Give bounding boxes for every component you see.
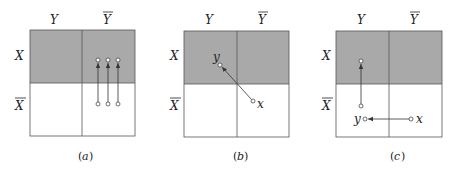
region-x-shaded [184, 31, 289, 84]
col-label-ybar: Y [410, 12, 420, 27]
caption-b: ( b ) [233, 150, 248, 163]
caption-a: ( a ) [78, 150, 93, 163]
panel-a: Y Y X X ( a [14, 12, 135, 163]
region-xbar [30, 83, 135, 136]
row-label-xbar: X [321, 98, 333, 113]
row-label-x: X [321, 49, 331, 63]
svg-text:X: X [169, 99, 179, 113]
svg-text:c: c [394, 150, 400, 163]
diagram-canvas: Y Y X X ( a [0, 0, 455, 176]
svg-text:Y: Y [103, 13, 112, 27]
col-label-y: Y [205, 13, 214, 27]
row-label-xbar: X [169, 98, 181, 113]
row-label-xbar: X [14, 98, 26, 113]
point-label-y: y [353, 112, 361, 126]
svg-text:X: X [321, 99, 331, 113]
svg-text:Y: Y [258, 13, 267, 27]
point-label-y: y [212, 50, 220, 64]
region-xbar [184, 84, 289, 137]
point-label-x: x [416, 112, 423, 126]
panel-c: Y Y X X y x ( c ) [321, 12, 442, 163]
svg-text:): ) [401, 150, 405, 163]
col-label-ybar: Y [103, 12, 113, 27]
svg-text:b: b [237, 150, 244, 163]
col-label-y: Y [357, 13, 366, 27]
svg-text:Y: Y [410, 13, 419, 27]
row-label-x: X [14, 49, 24, 63]
svg-text:): ) [244, 150, 248, 163]
caption-c: ( c ) [390, 150, 405, 163]
col-label-y: Y [50, 13, 59, 27]
panel-b: Y Y X X y x ( b ) [169, 12, 289, 163]
col-label-ybar: Y [258, 12, 268, 27]
svg-text:): ) [89, 150, 93, 163]
svg-text:X: X [14, 99, 24, 113]
region-x-shaded [30, 30, 135, 83]
svg-text:a: a [82, 150, 89, 163]
point-label-x: x [257, 97, 264, 111]
row-label-x: X [169, 49, 179, 63]
